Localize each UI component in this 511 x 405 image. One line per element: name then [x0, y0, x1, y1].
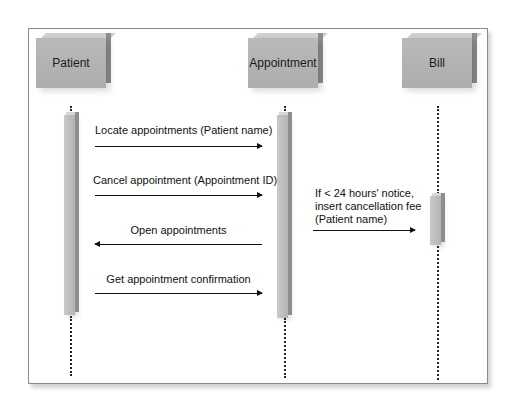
message-label-open: Open appointments — [95, 224, 262, 236]
arrow-right-cancel — [95, 195, 262, 196]
bar-side — [441, 193, 445, 242]
message-label-cancel: Cancel appointment (Appointment ID) — [93, 174, 277, 186]
lifeline-bill-bottom — [437, 246, 439, 380]
note-line-1: If < 24 hours' notice, — [315, 187, 421, 200]
bar-side — [75, 112, 79, 312]
arrow-right-confirm — [95, 293, 262, 294]
object-bill: Bill — [402, 38, 472, 88]
box-side-face — [106, 33, 111, 83]
lifeline-appointment-bottom — [284, 318, 286, 378]
box-side-face — [318, 33, 323, 83]
activation-bar-patient — [64, 115, 75, 315]
arrow-right-cancellation-fee — [313, 230, 415, 231]
object-label-appointment: Appointment — [248, 38, 318, 88]
activation-bar-appointment — [277, 115, 288, 318]
lifeline-patient-bottom — [70, 316, 72, 376]
object-appointment: Appointment — [248, 38, 318, 88]
message-label-locate: Locate appointments (Patient name) — [95, 124, 272, 136]
note-line-2: insert cancellation fee — [315, 200, 421, 213]
note-line-3: (Patient name) — [315, 213, 421, 226]
bar-side — [288, 112, 292, 315]
object-patient: Patient — [36, 38, 106, 88]
arrow-right-locate — [95, 146, 262, 147]
object-label-bill: Bill — [402, 38, 472, 88]
message-label-confirm: Get appointment confirmation — [95, 273, 262, 285]
object-label-patient: Patient — [36, 38, 106, 88]
note-message-cancellation-fee: If < 24 hours' notice, insert cancellati… — [315, 187, 421, 226]
lifeline-bill-top — [437, 106, 439, 194]
arrow-left-open — [95, 244, 262, 245]
box-side-face — [472, 33, 477, 83]
activation-bar-bill — [430, 196, 441, 245]
